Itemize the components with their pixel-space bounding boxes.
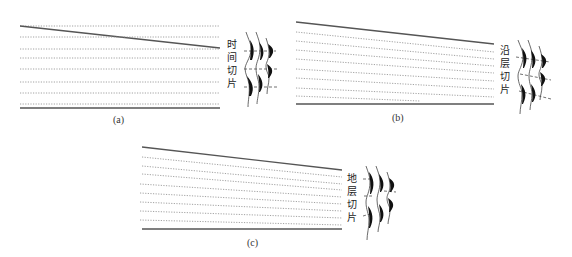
label-char: 层 (346, 185, 358, 198)
panel-a-label: 时 间 切 片 (226, 38, 238, 90)
label-char: 间 (226, 51, 238, 64)
label-char: 时 (226, 38, 238, 51)
slice-comparison-diagram: .solid { stroke: #555; stroke-width: 1.3… (0, 0, 572, 257)
panel-b-caption: (b) (392, 112, 404, 123)
panel-b-top-boundary (296, 22, 494, 44)
label-char: 片 (346, 211, 358, 224)
label-char: 切 (499, 70, 511, 83)
label-char: 切 (346, 198, 358, 211)
panel-c-label: 地 层 切 片 (346, 172, 358, 224)
panel-c-wiggle-traces (363, 166, 396, 240)
panel-b-strata (296, 22, 494, 104)
panel-b-wiggle-traces (516, 40, 551, 114)
label-char: 沿 (499, 44, 511, 57)
panel-b-label: 沿 层 切 片 (499, 44, 511, 96)
panel-c-top-boundary (142, 147, 342, 170)
label-char: 切 (226, 64, 238, 77)
label-char: 片 (226, 77, 238, 90)
panel-c-caption: (c) (247, 237, 258, 248)
label-char: 层 (499, 57, 511, 70)
panel-c-strata (140, 147, 342, 229)
panel-a-wiggle-traces (244, 32, 278, 107)
panel-a-caption: (a) (113, 114, 124, 125)
panel-a-strata (20, 26, 220, 108)
label-char: 地 (346, 172, 358, 185)
label-char: 片 (499, 83, 511, 96)
